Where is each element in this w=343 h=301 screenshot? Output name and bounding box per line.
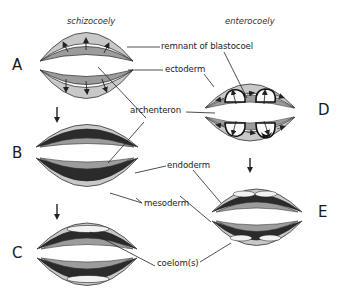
stage-label-b: B (12, 146, 22, 161)
label-archenteron: archenteron (130, 106, 181, 115)
label-remnant-of-blastocoel: remnant of blastocoel (161, 42, 253, 51)
coelom-formation-diagram: schizocoely enterocoely A B C D E remnan… (0, 0, 343, 301)
title-enterocoely: enterocoely (225, 17, 275, 25)
stage-label-d: D (318, 103, 330, 118)
embryo-b (36, 125, 138, 187)
stage-label-e: E (318, 205, 327, 220)
label-ectoderm: ectoderm (165, 65, 205, 74)
embryo-c (37, 223, 137, 286)
label-endoderm: endoderm (167, 161, 210, 170)
embryo-a (40, 33, 133, 99)
embryo-e (212, 189, 302, 246)
label-mesoderm: mesoderm (144, 199, 189, 208)
title-schizocoely: schizocoely (67, 17, 115, 25)
embryo-d (205, 84, 295, 141)
label-coelom: coelom(s) (157, 259, 199, 268)
stage-label-c: C (12, 246, 22, 261)
stage-label-a: A (12, 58, 22, 73)
